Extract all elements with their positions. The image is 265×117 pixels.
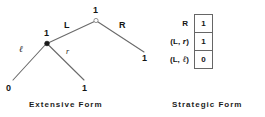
strategy-label-prefix: R <box>182 19 188 28</box>
payoff-cell: 1 <box>195 15 212 33</box>
payoff-root-right: 1 <box>142 54 147 63</box>
payoff-cell: 1 <box>195 33 212 51</box>
inner-node-owner-label: 1 <box>44 29 49 38</box>
strategy-label-prefix: (L, <box>170 37 181 46</box>
strategy-label-row: R <box>182 14 189 32</box>
strategy-label-prefix: (L, <box>170 55 181 64</box>
edge-inner-left <box>13 44 46 80</box>
payoff-cell: 0 <box>195 51 212 68</box>
strategic-form-matrix: R (L, r) (L, ℓ) 1 1 0 <box>170 14 213 69</box>
action-label-R: R <box>119 21 126 30</box>
root-node-owner-label: 1 <box>93 6 98 15</box>
strategic-form-caption: Strategic Form <box>172 100 242 109</box>
inner-node-marker <box>45 41 50 46</box>
action-label-r: r <box>66 48 69 56</box>
figure-canvas: 1 L R 1 ℓ r 0 1 1 Extensive Form R (L, r… <box>0 0 265 117</box>
action-label-L: L <box>64 21 70 30</box>
payoff-inner-left: 0 <box>6 84 11 93</box>
extensive-form-caption: Extensive Form <box>29 100 103 109</box>
payoff-table: 1 1 0 <box>194 14 213 69</box>
payoff-inner-right: 1 <box>82 84 87 93</box>
strategy-label-row: (L, r) <box>170 32 189 50</box>
root-node-marker <box>94 18 98 22</box>
strategy-label-column: R (L, r) (L, ℓ) <box>170 14 194 68</box>
strategy-label-row: (L, ℓ) <box>170 50 189 68</box>
action-label-ell: ℓ <box>19 45 23 54</box>
edge-root-left <box>47 21 96 44</box>
strategy-label-suffix: ) <box>186 55 189 64</box>
strategy-label-suffix: ) <box>186 37 189 46</box>
